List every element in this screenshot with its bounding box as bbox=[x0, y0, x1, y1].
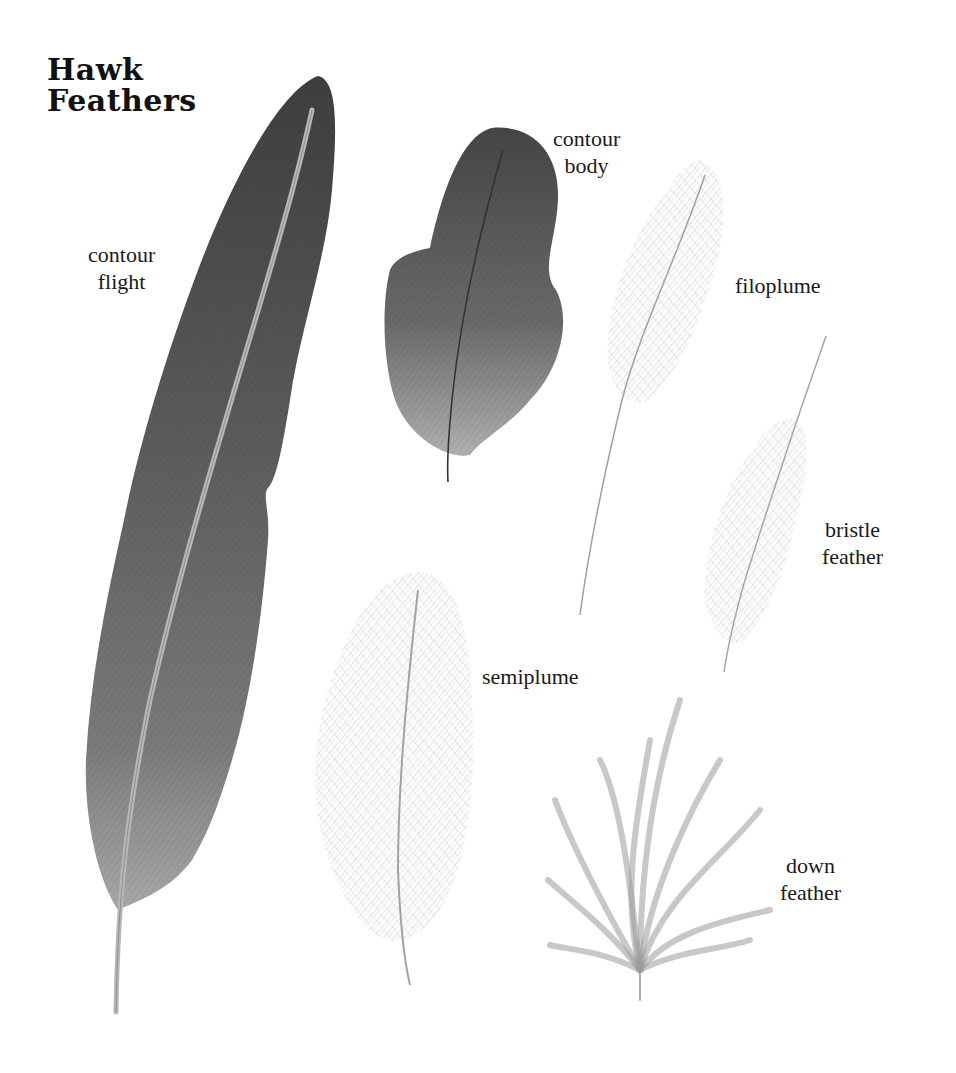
label-line: down bbox=[780, 852, 841, 879]
label-down-feather: down feather bbox=[780, 852, 841, 906]
label-line: contour bbox=[88, 241, 155, 268]
feather-illustrations bbox=[0, 0, 956, 1073]
down-feather bbox=[548, 700, 770, 1000]
label-contour-flight: contour flight bbox=[88, 241, 155, 295]
filoplume-feather bbox=[580, 160, 723, 615]
bristle-feather bbox=[705, 336, 826, 672]
label-line: bristle bbox=[822, 516, 883, 543]
label-line: feather bbox=[780, 879, 841, 906]
label-line: body bbox=[553, 152, 620, 179]
contour-body-feather bbox=[385, 128, 564, 482]
semiplume-feather bbox=[315, 572, 473, 985]
label-line: feather bbox=[822, 543, 883, 570]
label-contour-body: contour body bbox=[553, 125, 620, 179]
label-bristle-feather: bristle feather bbox=[822, 516, 883, 570]
label-line: contour bbox=[553, 125, 620, 152]
label-line: semiplume bbox=[482, 663, 579, 690]
label-line: flight bbox=[88, 268, 155, 295]
title-line-1: Hawk bbox=[47, 54, 197, 85]
page-title: Hawk Feathers bbox=[47, 54, 197, 116]
label-filoplume: filoplume bbox=[735, 272, 821, 299]
label-line: filoplume bbox=[735, 272, 821, 299]
title-line-2: Feathers bbox=[47, 85, 197, 116]
label-semiplume: semiplume bbox=[482, 663, 579, 690]
contour-flight-feather bbox=[86, 76, 335, 1012]
